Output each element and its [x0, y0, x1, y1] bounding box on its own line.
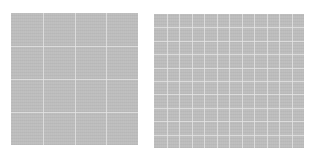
grid-line [75, 13, 76, 145]
fine-grid-texture-image [154, 14, 304, 148]
grid-line [106, 13, 107, 145]
grid-line [217, 14, 218, 148]
grid-line [179, 14, 180, 148]
grid-line [167, 14, 168, 148]
grid-line [204, 14, 205, 148]
grid-line [254, 14, 255, 148]
grid-line [279, 14, 280, 148]
grid-line [242, 14, 243, 148]
coarse-grid-texture-image [11, 13, 138, 145]
grid-line [229, 14, 230, 148]
grid-line [43, 13, 44, 145]
grid-line [267, 14, 268, 148]
grid-line [192, 14, 193, 148]
grid-line [292, 14, 293, 148]
